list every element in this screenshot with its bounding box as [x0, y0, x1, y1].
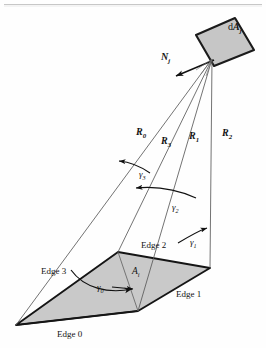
label-Nj: Nj	[161, 52, 170, 65]
label-R0: R0	[136, 127, 146, 140]
label-dAj: dAj	[228, 22, 242, 35]
label-gamma0: γ0	[97, 283, 104, 294]
label-edge-3: Edge 3	[41, 267, 66, 276]
scan-artifact	[4, 5, 262, 7]
normal-vector-Nj	[176, 60, 214, 76]
label-edge-0: Edge 0	[57, 330, 82, 339]
label-gamma1: γ1	[190, 238, 197, 249]
label-gamma3: γ3	[139, 170, 146, 181]
label-gamma2: γ2	[172, 203, 179, 214]
differential-element-dAj	[196, 18, 254, 66]
diagram-canvas	[0, 0, 266, 348]
label-R1: R1	[189, 131, 199, 144]
label-edge-2: Edge 2	[141, 241, 166, 250]
label-R2: R2	[222, 128, 232, 141]
form-factor-diagram: dAj Nj R0 R3 R1 R2 γ3 γ2 γ1 γ0 Ai Edge 2…	[0, 0, 266, 348]
ray-R2	[210, 59, 212, 268]
label-Ai: Ai	[132, 267, 140, 278]
label-edge-1: Edge 1	[176, 290, 201, 299]
label-R3: R3	[161, 136, 171, 149]
ray-R3	[118, 59, 212, 252]
